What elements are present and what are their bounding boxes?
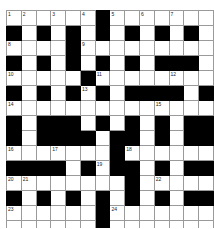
crossword-open-cell[interactable] xyxy=(140,221,155,229)
crossword-open-cell[interactable] xyxy=(184,221,199,229)
crossword-open-cell[interactable] xyxy=(110,86,125,101)
crossword-open-cell[interactable] xyxy=(169,26,184,41)
crossword-open-cell[interactable] xyxy=(154,146,169,161)
crossword-open-cell[interactable] xyxy=(110,176,125,191)
crossword-open-cell[interactable] xyxy=(140,161,155,176)
crossword-open-cell[interactable] xyxy=(80,176,95,191)
crossword-open-cell[interactable] xyxy=(110,221,125,229)
crossword-open-cell[interactable] xyxy=(140,146,155,161)
crossword-open-cell[interactable] xyxy=(169,41,184,56)
crossword-open-cell[interactable] xyxy=(21,56,36,71)
crossword-open-cell[interactable] xyxy=(140,176,155,191)
crossword-open-cell[interactable] xyxy=(110,191,125,206)
crossword-open-cell[interactable] xyxy=(80,221,95,229)
crossword-open-cell[interactable] xyxy=(36,41,51,56)
crossword-open-cell[interactable] xyxy=(51,206,66,221)
crossword-open-cell[interactable] xyxy=(184,101,199,116)
crossword-open-cell[interactable] xyxy=(21,71,36,86)
crossword-open-cell[interactable]: 2 xyxy=(21,11,36,26)
crossword-open-cell[interactable] xyxy=(51,101,66,116)
crossword-open-cell[interactable] xyxy=(80,56,95,71)
crossword-open-cell[interactable] xyxy=(66,161,81,176)
crossword-open-cell[interactable] xyxy=(36,221,51,229)
crossword-open-cell[interactable]: 18 xyxy=(125,146,140,161)
crossword-open-cell[interactable] xyxy=(21,146,36,161)
crossword-open-cell[interactable] xyxy=(80,26,95,41)
crossword-open-cell[interactable] xyxy=(95,101,110,116)
crossword-open-cell[interactable] xyxy=(140,206,155,221)
crossword-open-cell[interactable] xyxy=(36,176,51,191)
crossword-open-cell[interactable] xyxy=(21,116,36,131)
crossword-open-cell[interactable] xyxy=(80,191,95,206)
crossword-open-cell[interactable] xyxy=(110,41,125,56)
crossword-open-cell[interactable] xyxy=(66,221,81,229)
crossword-open-cell[interactable] xyxy=(199,56,214,71)
crossword-open-cell[interactable] xyxy=(125,206,140,221)
crossword-open-cell[interactable] xyxy=(95,131,110,146)
crossword-open-cell[interactable] xyxy=(184,206,199,221)
crossword-open-cell[interactable] xyxy=(21,41,36,56)
crossword-open-cell[interactable]: 3 xyxy=(51,11,66,26)
crossword-open-cell[interactable] xyxy=(154,41,169,56)
crossword-open-cell[interactable] xyxy=(140,26,155,41)
crossword-open-cell[interactable]: 1 xyxy=(7,11,22,26)
crossword-open-cell[interactable] xyxy=(154,71,169,86)
crossword-open-cell[interactable] xyxy=(199,206,214,221)
crossword-open-cell[interactable] xyxy=(51,41,66,56)
crossword-open-cell[interactable] xyxy=(95,41,110,56)
crossword-open-cell[interactable] xyxy=(140,116,155,131)
crossword-open-cell[interactable]: 5 xyxy=(110,11,125,26)
crossword-open-cell[interactable] xyxy=(125,71,140,86)
crossword-open-cell[interactable]: 23 xyxy=(7,206,22,221)
crossword-open-cell[interactable] xyxy=(140,56,155,71)
crossword-open-cell[interactable] xyxy=(66,206,81,221)
crossword-open-cell[interactable] xyxy=(169,206,184,221)
crossword-open-cell[interactable] xyxy=(184,11,199,26)
crossword-open-cell[interactable] xyxy=(66,71,81,86)
crossword-grid-container[interactable]: 123456789101112131415161718192021222324 xyxy=(6,10,214,228)
crossword-open-cell[interactable] xyxy=(184,71,199,86)
crossword-open-cell[interactable]: 4 xyxy=(80,11,95,26)
crossword-open-cell[interactable] xyxy=(169,191,184,206)
crossword-open-cell[interactable] xyxy=(21,206,36,221)
crossword-open-cell[interactable] xyxy=(66,176,81,191)
crossword-open-cell[interactable] xyxy=(199,101,214,116)
crossword-open-cell[interactable] xyxy=(140,71,155,86)
crossword-open-cell[interactable]: 16 xyxy=(7,146,22,161)
crossword-open-cell[interactable] xyxy=(199,221,214,229)
crossword-open-cell[interactable] xyxy=(184,176,199,191)
crossword-open-cell[interactable] xyxy=(140,191,155,206)
crossword-open-cell[interactable] xyxy=(125,11,140,26)
crossword-open-cell[interactable]: 8 xyxy=(7,41,22,56)
crossword-open-cell[interactable] xyxy=(199,41,214,56)
crossword-open-cell[interactable] xyxy=(184,146,199,161)
crossword-open-cell[interactable]: 14 xyxy=(7,101,22,116)
crossword-open-cell[interactable] xyxy=(110,56,125,71)
crossword-open-cell[interactable]: 17 xyxy=(51,146,66,161)
crossword-open-cell[interactable] xyxy=(21,191,36,206)
crossword-open-cell[interactable]: 6 xyxy=(140,11,155,26)
crossword-open-cell[interactable] xyxy=(199,146,214,161)
crossword-open-cell[interactable] xyxy=(51,191,66,206)
crossword-open-cell[interactable]: 24 xyxy=(110,206,125,221)
crossword-open-cell[interactable] xyxy=(21,101,36,116)
crossword-open-cell[interactable] xyxy=(184,86,199,101)
crossword-open-cell[interactable] xyxy=(21,86,36,101)
crossword-open-cell[interactable] xyxy=(110,26,125,41)
crossword-open-cell[interactable]: 11 xyxy=(95,71,110,86)
crossword-open-cell[interactable] xyxy=(110,101,125,116)
crossword-open-cell[interactable] xyxy=(154,206,169,221)
crossword-open-cell[interactable] xyxy=(140,41,155,56)
crossword-open-cell[interactable]: 15 xyxy=(154,101,169,116)
crossword-open-cell[interactable] xyxy=(199,11,214,26)
crossword-open-cell[interactable] xyxy=(66,11,81,26)
crossword-open-cell[interactable]: 22 xyxy=(154,176,169,191)
crossword-open-cell[interactable]: 13 xyxy=(80,86,95,101)
crossword-open-cell[interactable] xyxy=(95,176,110,191)
crossword-open-cell[interactable] xyxy=(154,221,169,229)
crossword-open-cell[interactable] xyxy=(21,221,36,229)
crossword-open-cell[interactable] xyxy=(51,56,66,71)
crossword-open-cell[interactable] xyxy=(66,101,81,116)
crossword-open-cell[interactable] xyxy=(80,116,95,131)
crossword-open-cell[interactable] xyxy=(36,101,51,116)
